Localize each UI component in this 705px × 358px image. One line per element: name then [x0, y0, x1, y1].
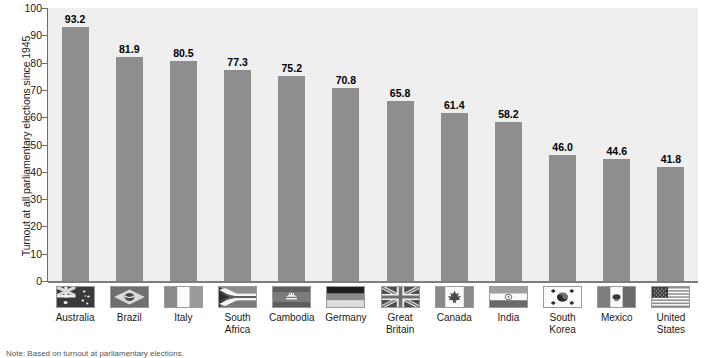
- bar-value-label: 81.9: [103, 43, 155, 55]
- category-item: Cambodia: [265, 286, 319, 324]
- category-label: Brazil: [102, 312, 156, 324]
- y-axis-tick-label: 40: [30, 166, 42, 178]
- bar-value-label: 80.5: [157, 47, 209, 59]
- flag-india-icon: [489, 286, 528, 308]
- category-axis: AustraliaBrazilItalySouthAfricaCambodiaG…: [48, 286, 698, 356]
- flag-great-britain-icon: [381, 286, 420, 308]
- category-label: Germany: [319, 312, 373, 324]
- category-item: Italy: [156, 286, 210, 324]
- flag-south-korea-icon: [543, 286, 582, 308]
- category-item: India: [481, 286, 535, 324]
- category-label-line: Australia: [48, 312, 102, 324]
- bar: [224, 70, 251, 281]
- category-item: UnitedStates: [644, 286, 698, 335]
- bar: [495, 122, 522, 281]
- category-label-line: Cambodia: [265, 312, 319, 324]
- chart-figure: Turnout at all parliamentary elections s…: [0, 0, 705, 358]
- y-axis-tick-label: 10: [30, 248, 42, 260]
- x-axis-baseline: [48, 281, 698, 283]
- category-item: Germany: [319, 286, 373, 324]
- bar: [170, 61, 197, 281]
- category-label: India: [481, 312, 535, 324]
- flag-south-africa-icon: [218, 286, 257, 308]
- category-label-line: States: [644, 324, 698, 336]
- category-label: SouthKorea: [536, 312, 590, 335]
- bar-value-label: 44.6: [591, 145, 643, 157]
- y-axis-tick-label: 30: [30, 193, 42, 205]
- flag-united-states-icon: [651, 286, 690, 308]
- flag-cambodia-icon: [272, 286, 311, 308]
- category-label-line: United: [644, 312, 698, 324]
- bar-value-label: 70.8: [320, 74, 372, 86]
- category-label-line: Africa: [211, 324, 265, 336]
- y-axis-tick-label: 70: [30, 84, 42, 96]
- y-axis-tick-label: 100: [24, 2, 42, 14]
- category-label: UnitedStates: [644, 312, 698, 335]
- category-label-line: South: [211, 312, 265, 324]
- bar-value-label: 75.2: [266, 62, 318, 74]
- category-item: SouthAfrica: [211, 286, 265, 335]
- category-label-line: Mexico: [590, 312, 644, 324]
- bar: [332, 88, 359, 281]
- flag-mexico-icon: [597, 286, 636, 308]
- flag-canada-icon: [435, 286, 474, 308]
- category-item: Mexico: [590, 286, 644, 324]
- category-label: Canada: [427, 312, 481, 324]
- category-label-line: Britain: [373, 324, 427, 336]
- y-axis-tick-label: 60: [30, 111, 42, 123]
- bar: [603, 159, 630, 281]
- category-label-line: Great: [373, 312, 427, 324]
- category-label: Australia: [48, 312, 102, 324]
- bar: [278, 76, 305, 281]
- bar: [657, 167, 684, 281]
- category-label: SouthAfrica: [211, 312, 265, 335]
- y-axis-tick-label: 20: [30, 220, 42, 232]
- bar-value-label: 65.8: [374, 87, 426, 99]
- bar-value-label: 46.0: [537, 141, 589, 153]
- y-axis: 0102030405060708090100: [0, 0, 48, 290]
- category-label-line: Korea: [536, 324, 590, 336]
- category-label-line: India: [481, 312, 535, 324]
- bar: [116, 57, 143, 281]
- category-item: SouthKorea: [536, 286, 590, 335]
- bar-value-label: 77.3: [212, 56, 264, 68]
- bar: [387, 101, 414, 281]
- category-label-line: South: [536, 312, 590, 324]
- category-label-line: Italy: [156, 312, 210, 324]
- y-axis-tick-label: 80: [30, 57, 42, 69]
- bar: [62, 27, 89, 281]
- bar-value-label: 41.8: [645, 153, 697, 165]
- flag-italy-icon: [164, 286, 203, 308]
- category-item: Brazil: [102, 286, 156, 324]
- chart-note: Note: Based on turnout at parliamentary …: [6, 349, 696, 358]
- category-item: GreatBritain: [373, 286, 427, 335]
- flag-australia-icon: [56, 286, 95, 308]
- category-item: Canada: [427, 286, 481, 324]
- category-label: Italy: [156, 312, 210, 324]
- y-axis-tick-label: 90: [30, 29, 42, 41]
- category-label: Cambodia: [265, 312, 319, 324]
- category-label: GreatBritain: [373, 312, 427, 335]
- bar-value-label: 61.4: [428, 99, 480, 111]
- y-axis-tick-label: 50: [30, 139, 42, 151]
- bar-value-label: 58.2: [482, 108, 534, 120]
- category-label-line: Brazil: [102, 312, 156, 324]
- flag-germany-icon: [326, 286, 365, 308]
- category-item: Australia: [48, 286, 102, 324]
- bar: [549, 155, 576, 281]
- flag-brazil-icon: [110, 286, 149, 308]
- category-label: Mexico: [590, 312, 644, 324]
- bar-value-label: 93.2: [49, 13, 101, 25]
- category-label-line: Germany: [319, 312, 373, 324]
- bar: [441, 113, 468, 281]
- category-label-line: Canada: [427, 312, 481, 324]
